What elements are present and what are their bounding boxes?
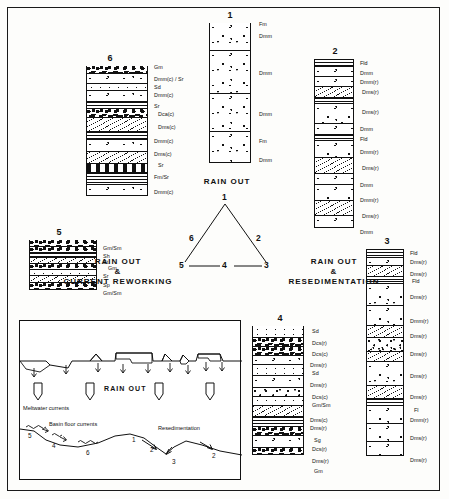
triangle-node-3[interactable]: 3 [264, 260, 269, 270]
column-body-4 [252, 326, 304, 455]
bed [87, 164, 147, 173]
panel-number-4[interactable]: 4 [52, 442, 56, 449]
bed [210, 94, 250, 132]
bed [87, 66, 147, 74]
bed-label: Dmm(c) / Sr [154, 77, 184, 82]
triangle-right-caption: RAIN OUT & RESEDIMENTATION [276, 257, 392, 287]
bed-label: Dca(c) [158, 112, 174, 117]
bed [253, 448, 303, 455]
panel-number-2a[interactable]: 2 [150, 446, 154, 453]
bed [87, 152, 147, 164]
bed-label: Dms(r) [410, 295, 427, 300]
bed-label: Dmm(r) [360, 198, 379, 203]
panel-resedimentation-label: Resedimentation [158, 425, 200, 431]
bed [253, 406, 303, 417]
bed [87, 91, 147, 102]
bed [315, 87, 353, 98]
bed [87, 140, 147, 152]
bed-label: Gm/Sm [312, 403, 331, 408]
bed [367, 362, 403, 386]
triangle-node-1[interactable]: 1 [222, 192, 227, 202]
bed [367, 338, 403, 352]
bed [253, 347, 303, 356]
cross-section-drawing [20, 321, 242, 481]
bed-label: Dms(r) [410, 260, 427, 265]
panel-number-2b[interactable]: 2 [212, 452, 216, 459]
bed-label: Dmm(r) [410, 418, 429, 423]
bed [367, 424, 403, 442]
bed [367, 406, 403, 424]
triangle-left-caption-line2: & [115, 267, 122, 276]
bed-label: Fld [410, 251, 418, 256]
bed-label: Dms(r) [410, 374, 427, 379]
bed-label: Fld [360, 61, 368, 66]
panel-basin-floor-label: Basin floor currents [49, 421, 97, 427]
column-number-6: 6 [100, 53, 120, 63]
bed [87, 118, 147, 132]
bed-label: Dcs(c) [312, 395, 328, 400]
column-number-5: 5 [49, 227, 69, 237]
column-number-2: 2 [325, 46, 345, 56]
bed [253, 356, 303, 365]
panel-number-5[interactable]: 5 [28, 432, 32, 439]
bed-label: Gm [154, 65, 163, 70]
bed-label: Dmm [360, 71, 373, 76]
panel-number-6[interactable]: 6 [86, 449, 90, 456]
bed-label: Fm [259, 139, 267, 144]
triangle-apex-caption: RAIN OUT [188, 177, 266, 187]
bed-label: Sr [154, 104, 160, 109]
triangle-right-caption-line1: RAIN OUT [311, 257, 358, 266]
bed-label: Dms(r) [362, 110, 379, 115]
panel-number-1[interactable]: 1 [132, 436, 136, 443]
bed-label: Dms(c) [310, 418, 328, 423]
bed [87, 84, 147, 91]
process-triangle: RAIN OUT 1 6 2 5 4 3 RAIN OUT & CURRENT … [110, 176, 350, 296]
bed-label: Dms(r) [362, 90, 379, 95]
bed-label: Fld [412, 279, 420, 284]
column-number-4: 4 [270, 313, 290, 323]
bed [87, 109, 147, 118]
bed-label: Dmm(r) [360, 150, 379, 155]
column-number-1: 1 [220, 10, 240, 20]
column-number-3: 3 [377, 236, 397, 246]
bed [210, 23, 250, 51]
bed-label: Dmm [360, 183, 373, 188]
triangle-node-5[interactable]: 5 [179, 260, 184, 270]
triangle-node-2[interactable]: 2 [256, 233, 261, 243]
bed-label: Dmm [259, 34, 272, 39]
bed [315, 104, 353, 124]
bed-label: Dms(r) [410, 272, 427, 277]
triangle-node-6[interactable]: 6 [189, 233, 194, 243]
bed-label: Dms(r) [310, 426, 327, 431]
bed-label: Sd [154, 85, 161, 90]
bed-label: Fl [414, 408, 419, 413]
bed-label: Dms(r) [410, 334, 427, 339]
bed-label: Dms(r) [310, 363, 327, 368]
bed [253, 376, 303, 388]
figure-root: 6 Gm Dmm(c) / Sr Sd Dmm(c) Sr Dca(c) Dms… [0, 0, 449, 499]
bed [210, 51, 250, 94]
bed-label: Dms(r) [310, 383, 327, 388]
bed [315, 141, 353, 158]
panel-rain-out-label: RAIN OUT [104, 385, 147, 392]
triangle-node-4[interactable]: 4 [222, 260, 227, 270]
bed-label: Dcs(r) [312, 341, 327, 346]
bed [253, 326, 303, 338]
bed-label: Dmm [259, 158, 272, 163]
bed-label: Dcs(c) [312, 352, 328, 357]
bed [253, 427, 303, 436]
bed-label: Dms(r) [410, 436, 427, 441]
bed [367, 399, 403, 406]
triangle-right-caption-line3: RESEDIMENTATION [288, 277, 379, 286]
panel-number-3[interactable]: 3 [172, 458, 176, 465]
bed-label: Sg [314, 438, 321, 443]
bed-label: Sd [312, 329, 319, 334]
bed [315, 124, 353, 135]
bed-label: Dms(r) [410, 395, 427, 400]
bed [253, 397, 303, 406]
bed-label: Dcs(r) [312, 447, 327, 452]
bed-label: Dmm(r) [410, 319, 429, 324]
bed [367, 352, 403, 362]
triangle-right-caption-line2: & [331, 267, 338, 276]
bed [30, 240, 96, 247]
